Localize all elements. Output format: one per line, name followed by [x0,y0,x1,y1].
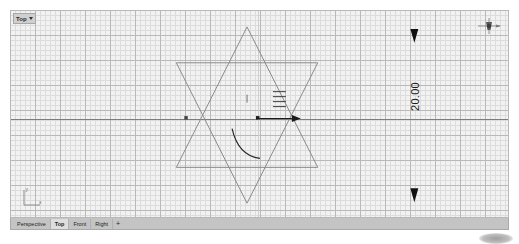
dimension-arrow-top [410,29,418,43]
arc-annotation [232,129,260,159]
viewport-tab-bar[interactable]: Perspective Top Front Right + [10,218,509,230]
dimension-value-label: 20.00 [409,82,421,111]
model-geometry [11,11,508,218]
view-navigation-gizmo[interactable] [474,15,504,37]
tab-front[interactable]: Front [69,219,91,229]
point-marker-left [184,116,187,119]
point-marker-center [256,116,259,119]
svg-text:x: x [39,199,42,205]
viewport-title-widget[interactable]: Top [13,13,36,24]
viewport-title-label: Top [16,15,27,23]
direction-arrow-head [292,115,301,122]
chevron-down-icon[interactable] [29,17,33,20]
tab-add-new[interactable]: + [113,219,123,229]
decorative-shadow [479,233,513,244]
axis-origin-icon: y x [19,185,45,209]
triangle-down-shape [176,63,317,203]
cad-application-window: 20.00 Top y x Perspective Top Front Righ… [0,0,519,244]
tab-perspective[interactable]: Perspective [13,219,51,229]
tab-right[interactable]: Right [91,219,113,229]
svg-text:y: y [26,186,29,192]
tab-top[interactable]: Top [51,219,70,229]
viewport-top[interactable]: 20.00 Top y x [10,10,509,218]
dimension-arrow-bottom [410,188,418,202]
